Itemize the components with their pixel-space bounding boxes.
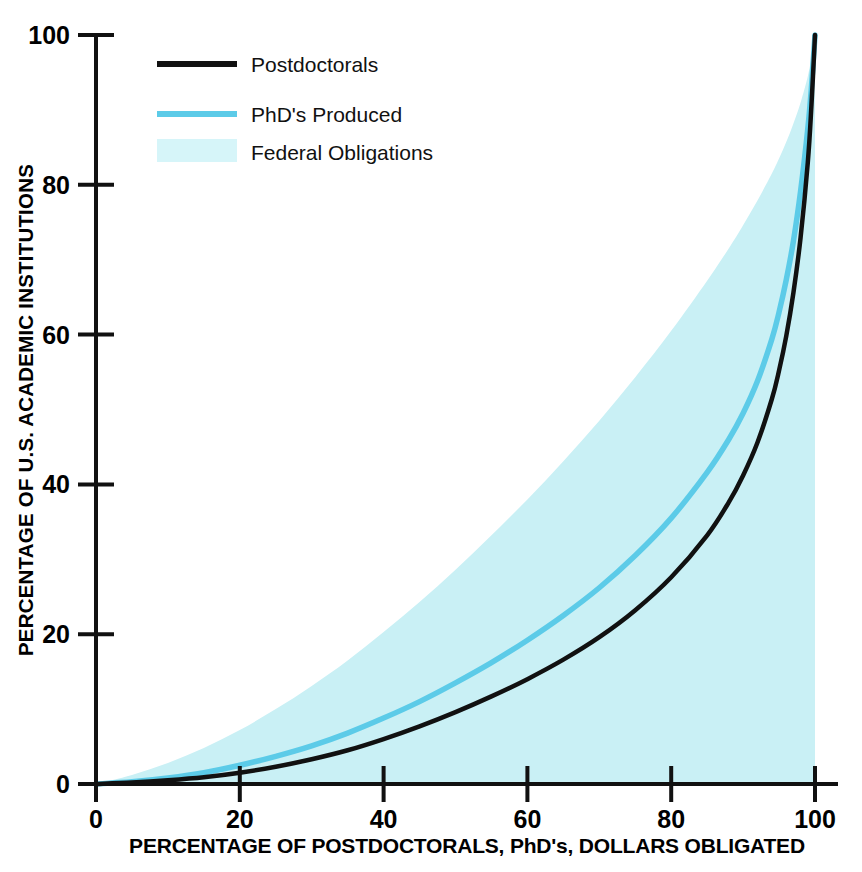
y-tick-label: 20 <box>42 620 70 648</box>
legend-label-postdoctorals: Postdoctorals <box>251 53 378 76</box>
y-axis-title: PERCENTAGE OF U.S. ACADEMIC INSTITUTIONS <box>14 164 37 656</box>
x-tick-label: 100 <box>794 805 836 833</box>
x-tick-label: 80 <box>657 805 685 833</box>
x-tick-label: 0 <box>89 805 103 833</box>
lorenz-curve-chart: 020406080100 020406080100 PERCENTAGE OF … <box>0 0 862 872</box>
x-tick-label: 40 <box>370 805 398 833</box>
legend-label-federal-obligations: Federal Obligations <box>251 141 433 164</box>
chart-container: 020406080100 020406080100 PERCENTAGE OF … <box>0 0 862 872</box>
x-tick-label: 20 <box>226 805 254 833</box>
x-axis-title: PERCENTAGE OF POSTDOCTORALS, PhD's, DOLL… <box>129 834 805 857</box>
y-tick-label: 60 <box>42 321 70 349</box>
y-tick-label: 0 <box>56 770 70 798</box>
legend-item-federal-obligations: Federal Obligations <box>157 139 433 164</box>
legend-swatch-area-federal-obligations <box>157 139 237 162</box>
legend-label-phds-produced: PhD's Produced <box>251 103 402 126</box>
x-tick-label: 60 <box>513 805 541 833</box>
y-tick-label: 100 <box>28 21 70 49</box>
y-tick-label: 80 <box>42 171 70 199</box>
y-tick-label: 40 <box>42 470 70 498</box>
